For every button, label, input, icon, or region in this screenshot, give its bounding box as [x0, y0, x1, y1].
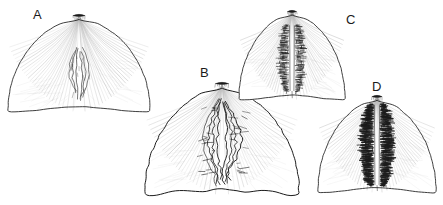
panel-label-d: D: [372, 80, 381, 93]
pigment-hatch: [300, 38, 305, 39]
pigment-hatch: [280, 41, 285, 42]
pigment-hatch: [362, 121, 367, 122]
pigment-hatch: [364, 173, 368, 174]
petal-a: [8, 14, 150, 112]
petal-b: [145, 82, 299, 197]
panel-label-c: C: [346, 13, 355, 26]
pigment-hatch: [387, 164, 390, 165]
pigment-hatch: [385, 166, 387, 167]
petal-illustration-canvas: [0, 0, 443, 205]
panel-label-a: A: [33, 8, 42, 21]
pigment-hatch: [361, 152, 366, 153]
pigment-hatch: [364, 175, 368, 176]
pigment-hatch: [366, 171, 372, 172]
apex-fiber: [297, 11, 298, 14]
pigment-rib: [296, 91, 297, 94]
pigment-hatch: [362, 155, 367, 156]
pigment-hatch: [300, 45, 305, 46]
petal-c: [239, 10, 345, 99]
petal-series-figure: A B C D: [0, 0, 443, 205]
pigment-hatch: [298, 54, 302, 55]
panel-label-b: B: [200, 66, 209, 79]
apex-fiber: [215, 83, 216, 87]
pigment-hatch: [387, 167, 392, 168]
pigment-hatch: [371, 178, 374, 179]
pigment-hatch: [388, 132, 391, 133]
petal-d: [318, 95, 436, 193]
pigment-hatch: [298, 88, 302, 89]
pigment-hatch: [300, 74, 306, 75]
